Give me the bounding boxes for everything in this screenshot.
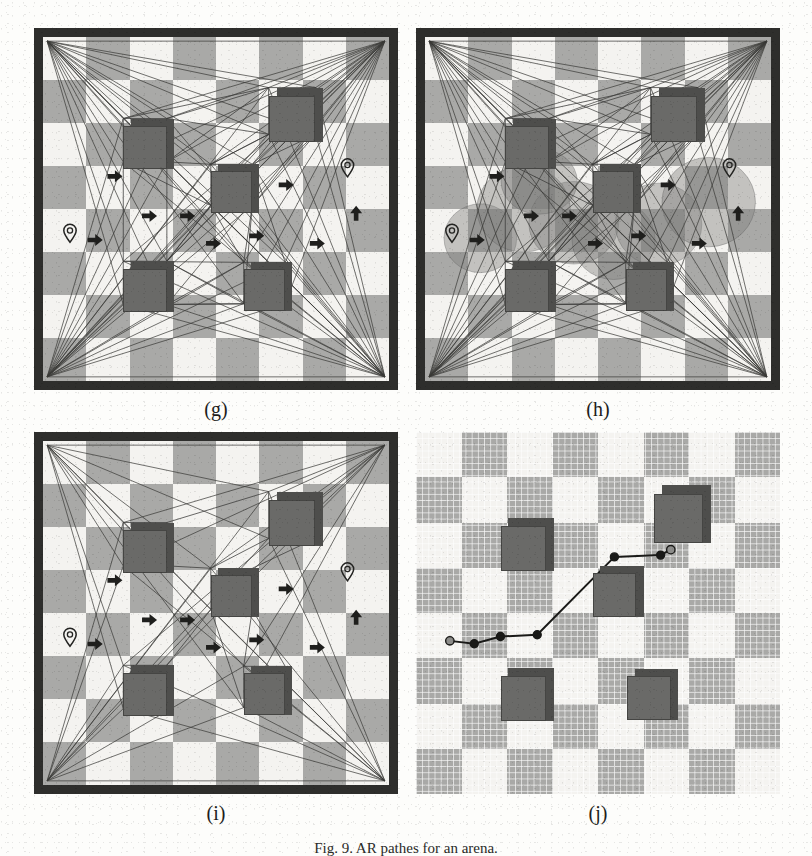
cube-top-face [508,518,554,526]
panel-label-i: (i) [34,802,398,825]
cube-top-face [600,566,644,573]
panel-h: (h) [416,28,780,390]
arena-wall-frame [34,28,398,390]
panel-label-g: (g) [34,398,398,421]
arena-wall-frame [34,432,398,794]
cube-front-face [627,676,671,720]
cube-side-face [703,494,711,543]
path-waypoint-waypoint [610,553,618,561]
obstacle-cube-lower-left [501,668,554,721]
figure-panel-grid: (g)(h)(i)(j) [0,0,812,856]
panel-label-h: (h) [416,398,780,421]
path-waypoint-start [446,637,454,645]
path-waypoint-waypoint [470,640,478,648]
cube-top-face [662,485,711,493]
cube-top-face [508,668,554,676]
cube-front-face [501,676,547,722]
cube-top-face [635,669,679,676]
panel-i: (i) [34,432,398,794]
cube-front-face [654,494,703,543]
cube-front-face [593,573,637,617]
arena-wall-frame [416,28,780,390]
panel-label-j: (j) [416,802,780,825]
cube-side-face [671,676,678,720]
figure-caption: Fig. 9. AR pathes for an arena. [0,840,812,856]
panel-g: (g) [34,28,398,390]
panel-j: (j) [416,432,780,794]
cube-side-face [546,526,554,572]
cube-front-face [501,526,547,572]
cube-side-face [546,676,554,722]
obstacle-cube-upper-left [501,518,554,571]
path-waypoint-waypoint [496,633,504,641]
path-waypoint-waypoint [533,631,541,639]
path-waypoint-waypoint [657,551,665,559]
obstacle-cube-upper-right [654,485,711,542]
cube-side-face [636,573,643,617]
obstacle-cube-lower-right [627,669,678,720]
path-waypoint-goal [667,545,675,553]
obstacle-cube-center [593,566,644,617]
